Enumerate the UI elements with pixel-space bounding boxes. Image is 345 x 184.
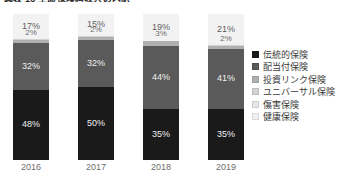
legend-color-swatch-icon — [252, 101, 259, 108]
bar-segment[interactable]: 35% — [208, 109, 244, 160]
legend-item[interactable]: 伝統的保険 — [252, 48, 335, 61]
legend-item[interactable]: 投資リンク保険 — [252, 73, 335, 86]
legend-color-swatch-icon — [252, 88, 259, 95]
x-axis-tick-label: 2017 — [78, 162, 114, 172]
bar-segment-value: 35% — [152, 130, 170, 139]
legend-color-swatch-icon — [252, 63, 259, 70]
legend-item[interactable]: ユニバーサル保険 — [252, 86, 335, 99]
legend-color-swatch-icon — [252, 113, 259, 120]
bar-segment[interactable]: 44% — [143, 46, 179, 110]
bar-segment-value: 3% — [143, 30, 179, 38]
bar-segment[interactable]: 48% — [13, 90, 49, 160]
bar-segment-value: 44% — [152, 73, 170, 82]
legend-item-label: 傷害保険 — [263, 98, 299, 111]
stacked-bar-chart-figure: 図表 13 生命保険料収入の内訳 17%2%32%48%15%2%32%50%1… — [0, 0, 345, 184]
bar-segment-value: 2% — [78, 26, 114, 34]
legend-color-swatch-icon — [252, 51, 259, 58]
stacked-bar: 19%3%44%35% — [143, 14, 179, 160]
bar-segment-value: 32% — [22, 62, 40, 71]
bar-segment[interactable]: 32% — [78, 40, 114, 87]
bar-segment[interactable]: 41% — [208, 49, 244, 109]
legend-item-label: 投資リンク保険 — [263, 73, 326, 86]
legend-color-swatch-icon — [252, 76, 259, 83]
x-axis-tick-label: 2016 — [13, 162, 49, 172]
bar-segment-value: 35% — [217, 130, 235, 139]
legend-item-label: 健康保険 — [263, 110, 299, 123]
legend-item-label: 伝統的保険 — [263, 48, 308, 61]
bar-segment-value: 2% — [13, 29, 49, 37]
stacked-bar: 15%2%32%50% — [78, 14, 114, 160]
legend-item[interactable]: 健康保険 — [252, 111, 335, 124]
bar-segment-value: 50% — [87, 119, 105, 128]
x-axis: 2016201720182019 — [0, 162, 240, 180]
bar-segment[interactable]: 35% — [143, 109, 179, 160]
bar-segment-value: 48% — [22, 120, 40, 129]
bar-segment-value: 32% — [87, 59, 105, 68]
legend-item-label: ユニバーサル保険 — [263, 85, 335, 98]
legend-item[interactable]: 配当付保険 — [252, 61, 335, 74]
bar-column[interactable]: 15%2%32%50% — [78, 14, 114, 160]
bar-column[interactable]: 19%3%44%35% — [143, 14, 179, 160]
bar-segment-value: 21% — [217, 25, 235, 34]
figure-caption: 図表 13 生命保険料収入の内訳 — [4, 0, 244, 2]
stacked-bar: 21%2%41%35% — [208, 14, 244, 160]
bar-column[interactable]: 17%2%32%48% — [13, 14, 49, 160]
bar-segment-value: 2% — [208, 35, 244, 43]
chart-legend: 伝統的保険配当付保険投資リンク保険ユニバーサル保険傷害保険健康保険 — [252, 48, 335, 123]
plot-area: 17%2%32%48%15%2%32%50%19%3%44%35%21%2%41… — [0, 12, 240, 160]
x-axis-tick-label: 2018 — [143, 162, 179, 172]
legend-item-label: 配当付保険 — [263, 60, 308, 73]
legend-item[interactable]: 傷害保険 — [252, 98, 335, 111]
bar-segment-value: 41% — [217, 74, 235, 83]
bar-column[interactable]: 21%2%41%35% — [208, 14, 244, 160]
bar-segment[interactable]: 32% — [13, 43, 49, 90]
x-axis-tick-label: 2019 — [208, 162, 244, 172]
stacked-bar: 17%2%32%48% — [13, 14, 49, 160]
bar-segment[interactable]: 50% — [78, 87, 114, 160]
